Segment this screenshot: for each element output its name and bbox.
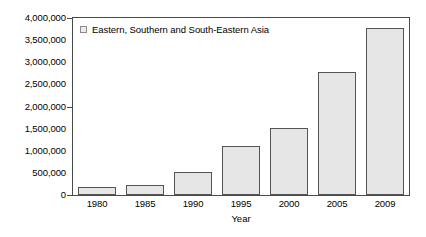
bars-group [73,18,409,195]
legend-label: Eastern, Southern and South-Eastern Asia [92,24,269,35]
legend: Eastern, Southern and South-Eastern Asia [80,24,269,35]
bar[interactable] [222,146,260,195]
bar[interactable] [126,185,164,195]
x-tick-label: 2009 [361,198,409,210]
bar[interactable] [318,72,356,195]
bar-slot [366,18,404,195]
y-tick-label: 4,000,000 [0,13,66,23]
y-tick-label: 1,500,000 [0,124,66,134]
y-axis: 0500,0001,000,0001,500,0002,000,0002,500… [0,17,66,196]
bar[interactable] [270,128,308,195]
bar-slot [78,18,116,195]
bar[interactable] [174,172,212,195]
bar-slot [318,18,356,195]
y-tick-label: 0 [0,190,66,200]
x-axis-title: Year [73,213,409,225]
y-tick-label: 500,000 [0,168,66,178]
y-tick-label: 2,500,000 [0,79,66,89]
x-tick-label: 1995 [217,198,265,210]
x-tick-label: 1985 [121,198,169,210]
bar-slot [222,18,260,195]
legend-swatch-icon [80,26,87,33]
y-tick-label: 3,500,000 [0,35,66,45]
bar[interactable] [78,187,116,195]
y-tick-label: 2,000,000 [0,102,66,112]
bar-slot [270,18,308,195]
bar[interactable] [366,28,404,195]
x-tick-label: 2005 [313,198,361,210]
y-tick-label: 3,000,000 [0,57,66,67]
bar-slot [174,18,212,195]
bar-chart: 0500,0001,000,0001,500,0002,000,0002,500… [0,0,426,237]
bar-slot [126,18,164,195]
y-tick-label: 1,000,000 [0,146,66,156]
x-axis: 1980198519901995200020052009 [73,198,409,212]
x-tick-label: 2000 [265,198,313,210]
x-tick-label: 1980 [73,198,121,210]
x-tick-label: 1990 [169,198,217,210]
